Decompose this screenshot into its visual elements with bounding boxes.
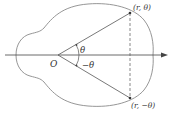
point-lower	[129, 97, 132, 100]
angle-arrow-lower-icon	[76, 65, 78, 67]
angle-arrow-upper-icon	[76, 44, 78, 46]
polar-symmetry-diagram: O θ −θ (r, θ) (r, −θ)	[0, 0, 175, 125]
point-upper-label: (r, θ)	[133, 3, 151, 12]
origin-label: O	[50, 59, 58, 69]
point-upper	[129, 12, 132, 15]
ray-upper	[58, 13, 130, 55]
angle-label: θ	[80, 45, 85, 55]
neg-angle-label: −θ	[82, 60, 94, 70]
angle-arc-lower	[76, 55, 79, 66]
point-lower-label: (r, −θ)	[131, 101, 155, 110]
axis-arrowhead-icon	[161, 53, 168, 58]
angle-arc-upper	[76, 45, 79, 56]
